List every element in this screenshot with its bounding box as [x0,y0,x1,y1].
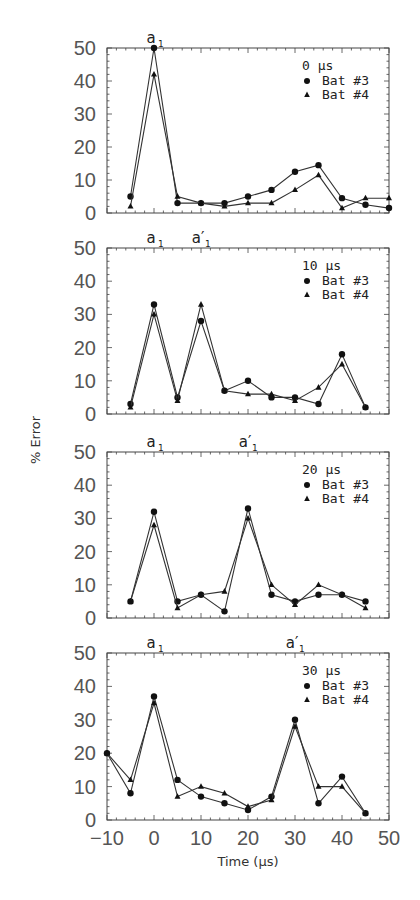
triangle-marker-icon [292,187,298,193]
legend-item-label: Bat #3 [322,273,369,288]
legend-title: 30 µs [302,663,341,678]
y-tick-label: 50 [74,237,96,259]
triangle-marker-icon [339,783,345,789]
event-marker-label: a [146,433,155,451]
series-bat-4 [128,301,369,410]
circle-marker-icon [268,592,274,598]
x-axis-label: Time (µs) [216,854,278,869]
y-tick-label: 0 [85,202,96,224]
legend: 30 µsBat #3Bat #4 [302,663,369,707]
triangle-marker-icon [339,361,345,367]
circle-marker-icon [245,505,251,511]
event-marker-subscript: 1 [252,443,258,453]
y-tick-label: 30 [74,507,96,529]
triangle-marker-icon [151,522,157,528]
circle-marker-icon [151,45,157,51]
legend: 10 µsBat #3Bat #4 [302,258,369,302]
circle-marker-icon [315,401,321,407]
legend-triangle-icon [304,92,310,98]
y-tick-label: 0 [85,403,96,425]
panels: 01020304050a10 µsBat #3Bat #401020304050… [74,29,400,849]
event-marker-subscript: 1 [299,644,305,654]
event-marker-subscript: 1 [158,644,164,654]
chart-panel-0: 01020304050a10 µsBat #3Bat #4 [74,29,392,224]
series-line [107,703,366,813]
legend-circle-icon [304,78,310,84]
circle-marker-icon [315,800,321,806]
x-tick-label: 10 [190,827,212,849]
legend-triangle-icon [304,496,310,502]
triangle-marker-icon [363,195,369,201]
triangle-marker-icon [316,172,322,178]
event-marker-label: a [146,229,155,247]
y-tick-label: 40 [74,270,96,292]
event-marker: a′1 [239,433,258,453]
triangle-marker-icon [269,391,275,397]
legend-item-label: Bat #4 [322,87,369,102]
circle-marker-icon [315,162,321,168]
circle-marker-icon [151,693,157,699]
y-tick-label: 20 [74,742,96,764]
y-tick-label: 20 [74,337,96,359]
triangle-marker-icon [198,783,204,789]
circle-marker-icon [292,717,298,723]
series-bat-4 [104,700,369,816]
legend-triangle-icon [304,292,310,298]
y-tick-label: 10 [74,370,96,392]
circle-marker-icon [198,318,204,324]
y-tick-label: 50 [74,37,96,59]
chart-panel-2: 01020304050a1a′120 µsBat #3Bat #4 [74,433,389,629]
event-marker: a′1 [286,634,305,654]
legend-item-label: Bat #3 [322,73,369,88]
event-marker-label: a [146,634,155,652]
circle-marker-icon [292,169,298,175]
circle-marker-icon [151,509,157,515]
triangle-marker-icon [151,71,157,77]
circle-marker-icon [127,790,133,796]
series-line [131,508,366,611]
circle-marker-icon [339,773,345,779]
y-tick-label: 0 [85,607,96,629]
event-marker-subscript: 1 [158,443,164,453]
circle-marker-icon [245,193,251,199]
triangle-marker-icon [128,203,134,209]
legend-title: 20 µs [302,462,341,477]
y-tick-label: 30 [74,709,96,731]
triangle-marker-icon [175,193,181,199]
legend-item-label: Bat #4 [322,491,369,506]
x-tick-label: 0 [148,827,159,849]
event-marker-label: a′ [239,433,252,451]
y-tick-label: 40 [74,70,96,92]
circle-marker-icon [245,378,251,384]
y-tick-label: 20 [74,541,96,563]
triangle-marker-icon [316,581,322,587]
y-tick-label: 40 [74,675,96,697]
circle-marker-icon [386,205,392,211]
y-tick-label: 10 [74,169,96,191]
series-line [107,696,366,813]
event-marker-label: a′ [286,634,299,652]
series-bat-3 [127,45,392,211]
legend-title: 0 µs [302,58,333,73]
event-marker: a′1 [192,229,211,249]
x-tick-label: −10 [90,827,124,849]
series-bat-4 [128,515,369,610]
series-line [131,48,390,208]
circle-marker-icon [268,187,274,193]
event-marker-subscript: 1 [158,39,164,49]
legend-circle-icon [304,482,310,488]
series-bat-3 [104,693,369,816]
event-marker-label: a [146,29,155,47]
triangle-marker-icon [245,200,251,206]
event-marker-label: a′ [192,229,205,247]
triangle-marker-icon [386,195,392,201]
triangle-marker-icon [269,581,275,587]
event-marker: a1 [146,634,163,654]
x-tick-label: 40 [331,827,353,849]
legend-item-label: Bat #3 [322,477,369,492]
legend-title: 10 µs [302,258,341,273]
y-tick-label: 50 [74,441,96,463]
legend-circle-icon [304,278,310,284]
chart-panel-1: 01020304050a1a′110 µsBat #3Bat #4 [74,229,389,425]
event-marker: a1 [146,433,163,453]
